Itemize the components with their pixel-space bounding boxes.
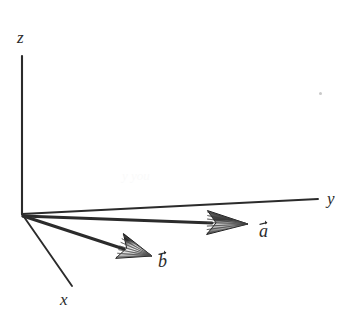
x-axis-label: x: [60, 291, 68, 308]
vector-diagram-figure: z y x a b y you: [0, 0, 351, 318]
vector-a-glyph: [23, 211, 248, 235]
vector-b-glyph: [23, 216, 152, 258]
y-axis-line: [22, 199, 318, 214]
vector-b-label: b: [158, 250, 167, 270]
vector-b-shaft: [23, 216, 124, 249]
vector-b-label-wrap: b: [158, 250, 167, 270]
scan-speck-artifact: [319, 92, 322, 95]
vector-a-label-letter: a: [259, 221, 268, 241]
vectors-group: [23, 211, 248, 259]
diagram-canvas: [0, 0, 351, 318]
vector-b-label-letter: b: [158, 251, 167, 271]
axes-group: [22, 56, 318, 286]
faint-background-text: y you: [122, 168, 150, 184]
vector-a-label-wrap: a: [259, 220, 268, 240]
vector-a-label: a: [259, 220, 268, 240]
vector-a-shaft: [23, 216, 212, 223]
y-axis-label: y: [327, 190, 335, 207]
z-axis-label: z: [17, 29, 24, 46]
